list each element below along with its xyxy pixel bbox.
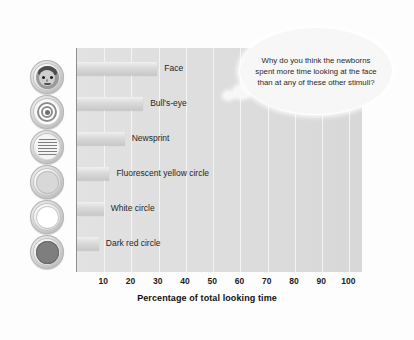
newsprint-line — [38, 148, 57, 149]
x-tick-label: 50 — [207, 276, 216, 286]
x-axis-title: Percentage of total looking time — [0, 293, 414, 303]
face-disc — [36, 66, 59, 89]
face-nose — [46, 79, 48, 82]
bar — [77, 167, 109, 180]
bullseye-disc — [36, 101, 59, 124]
yellow-circle-disc — [36, 171, 59, 194]
x-tick-label: 70 — [262, 276, 271, 286]
face-icon — [30, 60, 64, 94]
stimulus-icon-column — [30, 60, 64, 272]
bar — [77, 62, 157, 75]
yellow-circle-icon — [30, 165, 64, 199]
figure-container: FaceBull's-eyeNewsprintFluorescent yello… — [0, 0, 414, 340]
bar-label: White circle — [111, 202, 155, 215]
callout-text: Why do you think the newborns spent more… — [240, 55, 392, 88]
face-mouth — [44, 83, 51, 85]
face-eye-right — [50, 76, 53, 79]
bar — [77, 202, 104, 215]
x-tick-label: 60 — [235, 276, 244, 286]
x-tick-label: 100 — [341, 276, 355, 286]
x-tick-label: 30 — [153, 276, 162, 286]
white-circle-disc — [36, 206, 59, 229]
bar-label: Bull's-eye — [150, 97, 187, 110]
white-circle-icon — [30, 200, 64, 234]
bar — [77, 237, 99, 250]
x-tick-label: 10 — [99, 276, 108, 286]
callout-bubble: Why do you think the newborns spent more… — [240, 28, 392, 114]
newsprint-icon — [30, 130, 64, 164]
newsprint-line — [38, 145, 57, 146]
bar-label: Fluorescent yellow circle — [116, 167, 209, 180]
bar — [77, 132, 125, 145]
newsprint-line — [38, 142, 57, 143]
bar-label: Newsprint — [132, 132, 170, 145]
newsprint-line — [38, 139, 57, 140]
newsprint-line — [38, 154, 57, 155]
bar — [77, 97, 143, 110]
x-axis-ticks: 102030405060708090100 — [76, 276, 362, 290]
x-tick-label: 80 — [289, 276, 298, 286]
callout-tail-small — [224, 92, 233, 99]
dark-red-circle-disc — [36, 241, 59, 264]
face-eye-left — [42, 76, 45, 79]
bar-label: Face — [164, 62, 183, 75]
x-tick-label: 40 — [180, 276, 189, 286]
bar-label: Dark red circle — [106, 237, 161, 250]
newsprint-disc — [36, 136, 59, 159]
bullseye-icon — [30, 95, 64, 129]
gridline — [186, 48, 187, 272]
bullseye-center-dot — [45, 110, 50, 115]
x-tick-label: 90 — [316, 276, 325, 286]
gridline — [213, 48, 214, 272]
newsprint-line — [38, 151, 57, 152]
x-tick-label: 20 — [126, 276, 135, 286]
dark-red-circle-icon — [30, 235, 64, 269]
